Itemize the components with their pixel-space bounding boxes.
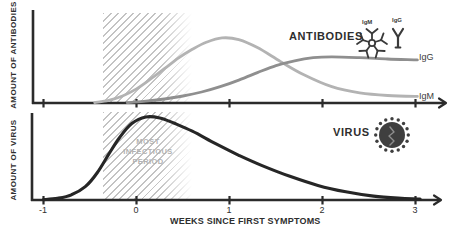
virus-icon [374, 117, 410, 153]
dual-line-chart [0, 0, 461, 237]
x-tick-label-neg1: -1 [33, 205, 53, 215]
virus-legend-title: VIRUS [333, 126, 370, 138]
x-tick-label-0: 0 [126, 205, 146, 215]
antibodies-legend-title: ANTIBODIES [289, 30, 363, 42]
infectious-line-1: MOST [110, 137, 186, 147]
x-tick-label-2: 2 [312, 205, 332, 215]
figure-canvas: AMOUNT OF ANTIBODIES AMOUNT OF VIRUS ANT… [0, 0, 461, 237]
igg-icon-label: IgG [392, 17, 402, 23]
virus-y-axis-label: AMOUNT OF VIRUS [9, 119, 18, 200]
infectious-line-3: PERIOD [110, 157, 186, 167]
antibodies-panel [32, 10, 446, 108]
antibodies-y-axis-label: AMOUNT OF ANTIBODIES [9, 1, 18, 109]
x-tick-label-1: 1 [219, 205, 239, 215]
x-axis-label: WEEKS SINCE FIRST SYMPTOMS [170, 216, 321, 226]
igm-icon-label: IgM [362, 19, 372, 25]
infectious-line-2: INFECTIOUS [110, 147, 186, 157]
virus-panel [31, 113, 441, 205]
igm-curve-label: IgM [419, 91, 434, 101]
x-tick-label-3: 3 [405, 205, 425, 215]
igg-antibody-icon [393, 29, 403, 48]
igg-curve-label: IgG [419, 52, 434, 62]
most-infectious-period-annotation: MOST INFECTIOUS PERIOD [110, 137, 186, 167]
